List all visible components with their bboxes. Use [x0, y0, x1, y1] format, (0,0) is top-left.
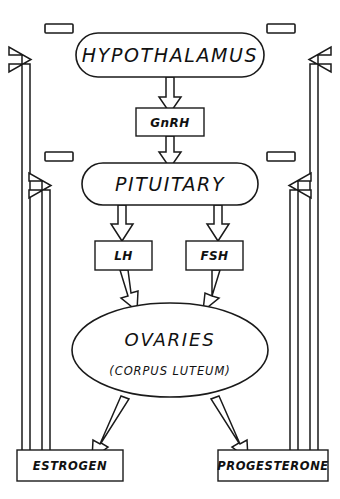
node-fsh[interactable]: FSH	[186, 241, 243, 270]
node-pituitary[interactable]: PITUITARY	[82, 163, 258, 205]
node-gnrh-label: GnRH	[150, 116, 189, 130]
node-ovaries-sublabel: (CORPUS LUTEUM)	[109, 364, 230, 378]
feedback-edge-estrogen-to-pituitary	[29, 173, 51, 460]
edge-pituitary-to-lh	[111, 205, 133, 241]
node-ovaries-label: OVARIES	[125, 329, 216, 350]
hpo-axis-diagram: HYPOTHALAMUS GnRH PITUITARY LH FSH OVARI…	[0, 0, 340, 499]
node-estrogen[interactable]: ESTROGEN	[17, 450, 123, 481]
node-progesterone-label: PROGESTERONE	[217, 459, 329, 473]
feedback-edge-progesterone-to-hypothalamus	[309, 47, 331, 460]
node-hypothalamus[interactable]: HYPOTHALAMUS	[76, 33, 264, 77]
feedback-edge-progesterone-to-pituitary	[289, 173, 311, 460]
edge-lh-to-ovaries	[120, 270, 138, 311]
node-fsh-label: FSH	[200, 249, 228, 263]
node-ovaries[interactable]: OVARIES (CORPUS LUTEUM)	[72, 303, 268, 397]
node-estrogen-label: ESTROGEN	[33, 459, 107, 473]
node-gnrh[interactable]: GnRH	[136, 108, 204, 136]
feedback-marker-mid-right	[267, 152, 295, 161]
feedback-edge-estrogen-to-hypothalamus	[9, 47, 31, 460]
edge-pituitary-to-fsh	[207, 205, 229, 241]
node-lh-label: LH	[114, 249, 133, 263]
node-progesterone[interactable]: PROGESTERONE	[217, 450, 329, 481]
node-hypothalamus-label: HYPOTHALAMUS	[82, 44, 258, 66]
diagram-canvas: HYPOTHALAMUS GnRH PITUITARY LH FSH OVARI…	[0, 0, 340, 499]
node-lh[interactable]: LH	[95, 241, 152, 270]
edge-fsh-to-ovaries	[203, 270, 220, 311]
node-pituitary-label: PITUITARY	[115, 173, 225, 195]
feedback-marker-top-left	[45, 24, 73, 33]
feedback-marker-mid-left	[45, 152, 73, 161]
feedback-marker-top-right	[267, 24, 295, 33]
